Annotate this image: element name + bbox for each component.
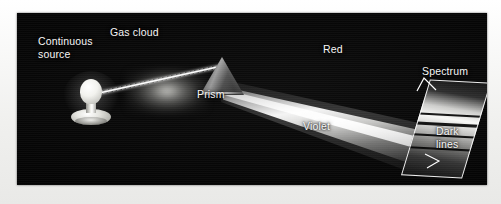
diagram-panel: Continuous source Gas cloud Prism Red Vi… [17,13,487,185]
dark-lines-pointer-icon [423,153,443,169]
label-spectrum: Spectrum [422,65,468,78]
label-prism: Prism [197,88,225,101]
bulb-base-shading [75,117,107,125]
label-continuous-source: Continuous source [38,35,93,60]
label-red: Red [323,43,343,56]
light-bulb [71,79,111,131]
spectrum-pointer-icon [416,76,438,92]
label-violet: Violet [303,120,330,133]
label-dark-lines: Dark lines [436,125,459,150]
bulb-glass [80,79,102,104]
figure-root: Continuous source Gas cloud Prism Red Vi… [0,0,501,204]
label-gas-cloud: Gas cloud [110,26,159,39]
